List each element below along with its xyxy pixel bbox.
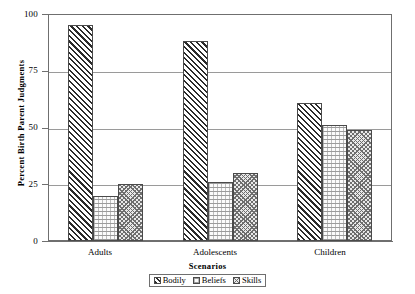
y-tick-mark-75	[42, 71, 48, 72]
y-tick-label-100: 100	[4, 10, 38, 19]
y-tick-label-0: 0	[4, 237, 38, 246]
y-tick-mark-25	[42, 184, 48, 185]
x-axis-title: Scenarios	[0, 261, 415, 271]
legend-swatch-bodily-icon	[154, 277, 161, 284]
bar-children-bodily	[297, 103, 322, 241]
x-category-label-adults: Adults	[60, 247, 140, 257]
bar-children-beliefs	[322, 125, 347, 241]
y-tick-mark-100	[42, 14, 48, 15]
y-axis-line	[48, 14, 49, 242]
bar-chart: 100 75 50 25 0 Percent Birth Parent Judg…	[0, 0, 415, 294]
legend-entry-skills: Skills	[233, 276, 261, 285]
legend-swatch-beliefs-icon	[193, 277, 200, 284]
x-axis-line	[48, 241, 393, 242]
bar-adults-beliefs	[93, 196, 118, 241]
x-category-label-adolescents: Adolescents	[175, 247, 255, 257]
x-category-label-children: Children	[290, 247, 370, 257]
legend-label-bodily: Bodily	[163, 276, 186, 285]
legend-label-beliefs: Beliefs	[202, 276, 226, 285]
legend-box: Bodily Beliefs Skills	[149, 274, 267, 287]
legend: Bodily Beliefs Skills	[0, 274, 415, 287]
bar-adults-skills	[118, 184, 143, 241]
legend-entry-beliefs: Beliefs	[193, 276, 226, 285]
y-tick-mark-50	[42, 128, 48, 129]
y-axis-title: Percent Birth Parent Judgments	[16, 48, 26, 198]
bar-adolescents-bodily	[183, 41, 208, 241]
bar-adolescents-beliefs	[208, 182, 233, 241]
legend-label-skills: Skills	[242, 276, 261, 285]
bar-adults-bodily	[68, 25, 93, 241]
bars-layer	[48, 14, 392, 241]
legend-swatch-skills-icon	[233, 277, 240, 284]
bar-children-skills	[347, 130, 372, 241]
bar-adolescents-skills	[233, 173, 258, 241]
legend-entry-bodily: Bodily	[154, 276, 186, 285]
